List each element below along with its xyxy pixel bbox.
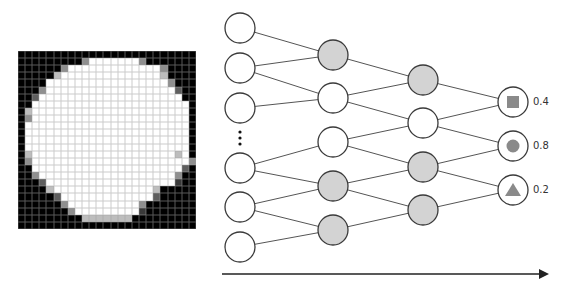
hidden1-node	[318, 171, 348, 201]
neural-network-diagram	[0, 0, 564, 294]
ellipsis-dot	[238, 142, 241, 145]
hidden1-node	[318, 127, 348, 157]
hidden1-node	[318, 83, 348, 113]
network-edges	[240, 28, 513, 247]
input-node	[225, 53, 255, 83]
input-node	[225, 232, 255, 262]
hidden1-node	[318, 215, 348, 245]
input-node	[225, 192, 255, 222]
vertical-ellipsis-icon	[238, 130, 241, 145]
input-node	[225, 13, 255, 43]
ellipsis-dot	[238, 130, 241, 133]
input-node	[225, 93, 255, 123]
output-label-square: 0.4	[533, 96, 549, 107]
output-label-triangle: 0.2	[533, 184, 549, 195]
hidden2-node	[408, 65, 438, 95]
right-arrow-icon	[222, 269, 549, 279]
hidden1-node	[318, 40, 348, 70]
output-label-circle: 0.8	[533, 140, 549, 151]
network-nodes	[225, 13, 528, 262]
hidden2-node	[408, 108, 438, 138]
circle-icon	[507, 140, 520, 153]
hidden2-node	[408, 195, 438, 225]
ellipsis-dot	[238, 136, 241, 139]
hidden2-node	[408, 152, 438, 182]
input-node	[225, 153, 255, 183]
square-icon	[507, 96, 519, 108]
